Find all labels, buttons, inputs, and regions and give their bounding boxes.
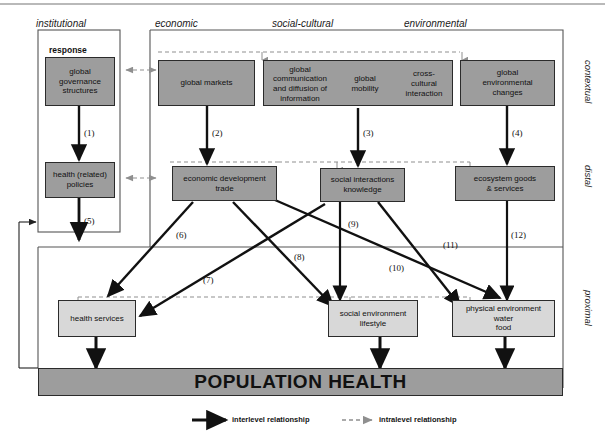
relationship-number-10: (10) (389, 263, 404, 273)
node-label: economic developmenttrade (183, 174, 265, 194)
relationship-number-4: (4) (512, 128, 523, 138)
node-label: global markets (180, 78, 232, 88)
node-global-markets[interactable]: global markets (158, 60, 255, 106)
node-label: globalcommunicationand diffusion ofinfor… (273, 65, 327, 104)
diagram-canvas: institutional economic social-cultural e… (0, 0, 605, 442)
node-ecosystem-goods-services[interactable]: ecosystem goods& services (455, 166, 555, 201)
node-health-related-policies[interactable]: health (related)policies (45, 162, 115, 198)
node-label: globalmobility (351, 74, 378, 94)
relationship-number-1: (1) (84, 128, 95, 138)
relationship-number-2: (2) (212, 128, 223, 138)
population-health-label: POPULATION HEALTH (194, 371, 407, 393)
node-label: health services (70, 314, 123, 324)
node-label: social interactionsknowledge (331, 175, 395, 195)
node-cross-cultural-interaction[interactable]: cross-culturalinteraction (394, 61, 454, 107)
node-label: ecosystem goods& services (474, 174, 536, 194)
relationship-number-11: (11) (443, 240, 458, 250)
node-physical-environment-water-food[interactable]: physical environmentwaterfood (452, 300, 555, 337)
node-social-interactions-knowledge[interactable]: social interactionsknowledge (320, 168, 405, 202)
relationship-number-6: (6) (176, 230, 187, 240)
node-label: cross-culturalinteraction (406, 69, 443, 98)
node-label: social environmentlifestyle (340, 309, 407, 329)
relationship-number-12: (12) (511, 230, 526, 240)
node-label: globalgovernancestructures (59, 67, 101, 96)
node-label: health (related)policies (53, 170, 107, 190)
node-social-environment-lifestyle[interactable]: social environmentlifestyle (328, 300, 418, 337)
node-economic-development-trade[interactable]: economic developmenttrade (172, 166, 277, 201)
node-global-communication[interactable]: globalcommunicationand diffusion ofinfor… (264, 61, 336, 107)
node-global-governance-structures[interactable]: globalgovernancestructures (45, 57, 115, 106)
relationship-number-9: (9) (348, 219, 359, 229)
node-health-services[interactable]: health services (58, 300, 136, 337)
relationship-number-3: (3) (363, 128, 374, 138)
population-health-bar: POPULATION HEALTH (38, 368, 563, 396)
relationship-number-7: (7) (203, 275, 214, 285)
legend-interlevel-label: interlevel relationship (232, 415, 310, 424)
node-global-mobility[interactable]: globalmobility (336, 61, 394, 107)
relationship-number-8: (8) (294, 252, 305, 262)
node-global-environmental-changes[interactable]: globalenvironmentalchanges (460, 60, 555, 106)
legend-intralevel-label: intralevel relationship (379, 415, 457, 424)
node-social-cultural-contextual-group[interactable]: globalcommunicationand diffusion ofinfor… (263, 60, 453, 106)
node-label: physical environmentwaterfood (466, 304, 541, 333)
relationship-number-5: (5) (84, 216, 95, 226)
node-label: globalenvironmentalchanges (482, 68, 532, 97)
